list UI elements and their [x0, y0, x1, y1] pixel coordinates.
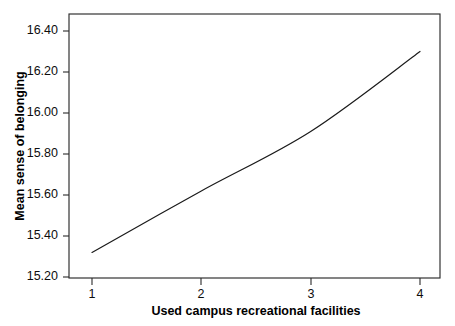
chart-figure: 16.40 16.20 16.00 15.80 15.60 15.40 15.2… [0, 0, 455, 326]
x-axis-tick-labels: 1 2 3 4 [89, 287, 424, 301]
y-tick-label-15.60: 15.60 [27, 187, 58, 201]
x-tick-label-1: 1 [89, 287, 96, 301]
x-tick-label-3: 3 [308, 287, 315, 301]
y-tick-label-15.20: 15.20 [27, 269, 58, 283]
y-tick-label-15.80: 15.80 [27, 146, 58, 160]
x-axis-ticks [92, 278, 420, 285]
y-tick-label-16.40: 16.40 [27, 23, 58, 37]
x-tick-label-4: 4 [417, 287, 424, 301]
y-axis-title: Mean sense of belonging [13, 71, 27, 220]
x-axis-title: Used campus recreational facilities [151, 304, 360, 318]
y-tick-label-15.40: 15.40 [27, 228, 58, 242]
y-axis-ticks [63, 31, 69, 277]
x-tick-label-2: 2 [198, 287, 205, 301]
y-axis-tick-labels: 16.40 16.20 16.00 15.80 15.60 15.40 15.2… [27, 23, 58, 283]
plot-area-background [69, 14, 440, 278]
line-chart: 16.40 16.20 16.00 15.80 15.60 15.40 15.2… [0, 0, 455, 326]
y-tick-label-16.00: 16.00 [27, 105, 58, 119]
y-tick-label-16.20: 16.20 [27, 64, 58, 78]
